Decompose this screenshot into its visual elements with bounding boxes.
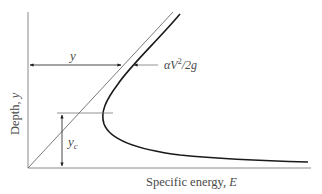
line-45-degree bbox=[28, 12, 173, 168]
specific-energy-curve bbox=[103, 14, 308, 162]
critical-depth-label: yc bbox=[66, 134, 78, 151]
depth-label: y bbox=[68, 48, 76, 63]
x-axis-label: Specific energy, E bbox=[146, 175, 237, 189]
specific-energy-diagram: y αV2/2g yc Specific energy, E Depth, y bbox=[0, 0, 322, 194]
velocity-head-label: αV2/2g bbox=[164, 57, 197, 72]
y-axis-label: Depth, y bbox=[8, 92, 22, 135]
